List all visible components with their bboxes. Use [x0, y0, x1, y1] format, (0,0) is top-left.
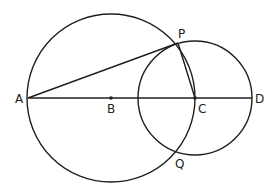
point-C-marker — [193, 96, 197, 100]
label-Q: Q — [175, 157, 184, 171]
label-D: D — [255, 92, 264, 106]
geometry-diagram: A B C D P Q — [0, 0, 274, 193]
label-C: C — [198, 102, 206, 116]
segment-PC — [178, 43, 195, 98]
point-B-marker — [109, 96, 113, 100]
segment-AP — [28, 43, 178, 98]
label-P: P — [178, 27, 185, 41]
label-A: A — [15, 92, 24, 106]
label-B: B — [107, 102, 115, 116]
